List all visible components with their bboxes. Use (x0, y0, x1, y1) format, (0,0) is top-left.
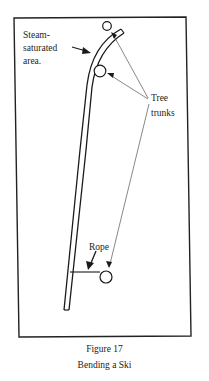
ski-tip-end (121, 29, 124, 33)
steam-label-line-1: Steam- (23, 29, 57, 41)
tree-pointer-bottom (110, 104, 149, 264)
tree-pointer-middle-head-icon (107, 73, 114, 78)
steam-label-line-3: area. (23, 55, 57, 67)
rope-label: Rope (89, 241, 109, 253)
tree-pointer-top (114, 36, 148, 98)
figure-number: Figure 17 (0, 344, 209, 354)
tree-trunk-middle-icon (94, 65, 106, 77)
ski-outer-edge (64, 29, 121, 310)
steam-label-line-2: saturated (23, 42, 57, 54)
steam-label: Steam- saturated area. (23, 29, 57, 67)
steam-arrow-head-icon (82, 47, 91, 54)
tree-trunk-top-icon (103, 22, 112, 31)
rope-arrow-head-icon (86, 261, 94, 270)
tree-trunks-label: Tree trunks (151, 92, 175, 119)
tree-label-line-2: trunks (151, 107, 175, 119)
tree-trunk-bottom-icon (100, 271, 112, 283)
figure-title: Bending a Ski (0, 360, 209, 370)
tree-label-line-1: Tree (151, 92, 175, 104)
tree-pointer-bottom-head-icon (106, 261, 112, 268)
